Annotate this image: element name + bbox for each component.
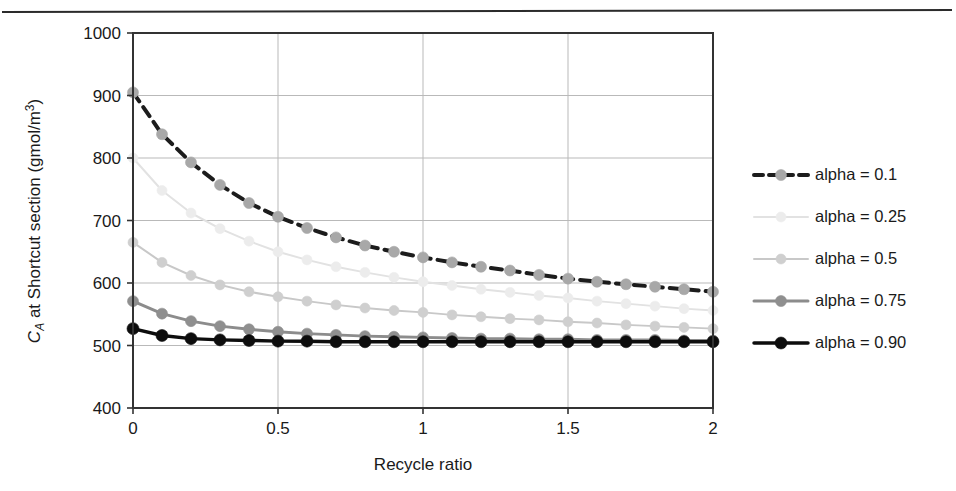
data-point-marker: [476, 284, 486, 294]
data-point-marker: [330, 336, 342, 348]
legend-label: alpha = 0.1: [815, 166, 897, 183]
x-tick-label: 0: [128, 419, 137, 438]
data-point-marker: [504, 336, 516, 348]
data-point-marker: [215, 321, 226, 332]
legend-label: alpha = 0.75: [815, 292, 906, 309]
y-axis-tick-labels: 4005006007008009001000: [83, 24, 121, 418]
x-axis-title: Recycle ratio: [374, 455, 472, 474]
data-point-marker: [244, 324, 255, 335]
data-point-marker: [592, 276, 603, 287]
data-point-marker: [679, 284, 690, 295]
data-point-marker: [331, 262, 341, 272]
data-point-marker: [157, 129, 168, 140]
data-point-marker: [157, 308, 168, 319]
data-point-marker: [215, 224, 225, 234]
data-point-marker: [621, 279, 632, 290]
data-point-marker: [534, 291, 544, 301]
x-axis-tick-labels: 00.511.52: [128, 419, 717, 438]
x-tick-label: 0.5: [266, 419, 290, 438]
data-point-marker: [302, 223, 313, 234]
data-point-marker: [244, 198, 255, 209]
data-point-marker: [186, 208, 196, 218]
y-tick-label: 700: [93, 212, 121, 231]
x-tick-label: 1.5: [556, 419, 580, 438]
data-point-marker: [650, 301, 660, 311]
data-point-marker: [244, 236, 254, 246]
chart-legend: alpha = 0.1alpha = 0.25alpha = 0.5alpha …: [752, 160, 952, 375]
data-point-marker: [591, 336, 603, 348]
data-point-marker: [679, 322, 689, 332]
data-point-marker: [244, 287, 254, 297]
legend-label: alpha = 0.90: [815, 334, 906, 351]
legend-item-1[interactable]: alpha = 0.25: [752, 202, 952, 232]
data-point-marker: [360, 303, 370, 313]
data-point-marker: [331, 232, 342, 243]
legend-item-0[interactable]: alpha = 0.1: [752, 160, 952, 190]
grid-lines: [133, 33, 713, 408]
data-point-marker: [533, 336, 545, 348]
legend-item-3[interactable]: alpha = 0.75: [752, 286, 952, 316]
legend-swatch-icon: [752, 202, 810, 232]
data-point-marker: [185, 333, 197, 345]
data-point-marker: [650, 281, 661, 292]
y-tick-label: 600: [93, 274, 121, 293]
data-point-marker: [476, 261, 487, 272]
data-point-marker: [273, 247, 283, 257]
data-point-marker: [563, 293, 573, 303]
legend-swatch-icon: [752, 286, 810, 316]
x-tick-label: 2: [708, 419, 717, 438]
data-point-marker: [592, 296, 602, 306]
data-point-marker: [186, 316, 197, 327]
data-point-marker: [302, 255, 312, 265]
y-axis-title: CA at Shortcut section (gmol/m3): [23, 99, 47, 343]
data-point-marker: [563, 273, 574, 284]
data-point-marker: [678, 336, 690, 348]
axis-ticks: [127, 33, 713, 414]
legend-label: alpha = 0.25: [815, 208, 906, 225]
data-point-marker: [272, 335, 284, 347]
data-point-marker: [447, 310, 457, 320]
data-point-marker: [157, 257, 167, 267]
data-point-marker: [389, 272, 399, 282]
data-point-marker: [505, 314, 515, 324]
data-point-marker: [534, 269, 545, 280]
x-tick-label: 1: [418, 419, 427, 438]
data-point-marker: [360, 240, 371, 251]
legend-swatch-icon: [752, 244, 810, 274]
y-tick-label: 400: [93, 399, 121, 418]
legend-swatch-icon: [752, 160, 810, 190]
data-point-marker: [302, 296, 312, 306]
data-point-marker: [331, 300, 341, 310]
legend-swatch-icon: [752, 328, 810, 358]
data-point-marker: [562, 336, 574, 348]
data-point-marker: [243, 335, 255, 347]
legend-item-2[interactable]: alpha = 0.5: [752, 244, 952, 274]
data-point-marker: [301, 335, 313, 347]
legend-item-4[interactable]: alpha = 0.90: [752, 328, 952, 358]
svg-text:CA at Shortcut section (gmol/m: CA at Shortcut section (gmol/m3): [23, 99, 47, 343]
data-point-marker: [679, 304, 689, 314]
data-point-marker: [447, 281, 457, 291]
data-point-marker: [534, 315, 544, 325]
data-point-marker: [476, 312, 486, 322]
data-point-marker: [621, 299, 631, 309]
data-point-marker: [592, 318, 602, 328]
data-point-marker: [417, 336, 429, 348]
figure-container: 00.511.52 4005006007008009001000 Recycle…: [0, 0, 956, 491]
data-point-marker: [186, 271, 196, 281]
data-point-marker: [215, 179, 226, 190]
data-point-marker: [649, 336, 661, 348]
data-point-marker: [359, 336, 371, 348]
y-tick-label: 1000: [83, 24, 121, 43]
data-point-marker: [505, 265, 516, 276]
data-point-marker: [447, 257, 458, 268]
data-point-marker: [620, 336, 632, 348]
data-point-marker: [214, 334, 226, 346]
y-tick-label: 900: [93, 87, 121, 106]
data-point-marker: [273, 292, 283, 302]
data-point-marker: [389, 246, 400, 257]
data-point-marker: [418, 307, 428, 317]
data-point-marker: [360, 267, 370, 277]
data-point-marker: [156, 330, 168, 342]
data-point-marker: [650, 321, 660, 331]
